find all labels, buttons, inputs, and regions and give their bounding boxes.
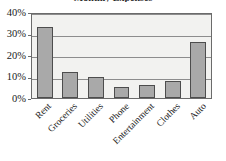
y-tick-label: 20% <box>7 51 26 62</box>
bar-chart-figure: Monthly Expenses 0%10%20%30%40% RentGroc… <box>0 0 226 161</box>
chart-title: Monthly Expenses <box>0 0 226 2</box>
bar[interactable] <box>37 27 53 98</box>
y-tick-label: 10% <box>7 72 26 83</box>
plot-area <box>31 13 212 99</box>
y-tick-label: 0% <box>12 94 26 105</box>
bar-slot <box>58 14 84 98</box>
bar-slot <box>109 14 135 98</box>
bar-slot <box>160 14 186 98</box>
y-tick-label: 30% <box>7 29 26 40</box>
bar[interactable] <box>114 87 130 98</box>
bar-slot <box>134 14 160 98</box>
x-tick-label: Auto <box>188 101 209 122</box>
bar-slot <box>83 14 109 98</box>
bar-slot <box>32 14 58 98</box>
x-tick-label: Utilities <box>76 101 105 130</box>
bar[interactable] <box>139 85 155 98</box>
bar-slot <box>185 14 211 98</box>
y-tick-label: 40% <box>7 8 26 19</box>
x-tick-label: Rent <box>33 101 53 121</box>
bar[interactable] <box>190 42 206 98</box>
bars-group <box>32 14 211 98</box>
bar[interactable] <box>62 72 78 98</box>
x-axis: RentGroceriesUtilitiesPhoneEntertainment… <box>31 99 212 161</box>
bar[interactable] <box>88 77 104 99</box>
x-tick-label: Clothes <box>155 101 183 129</box>
bar[interactable] <box>165 81 181 98</box>
y-axis: 0%10%20%30%40% <box>0 0 29 161</box>
